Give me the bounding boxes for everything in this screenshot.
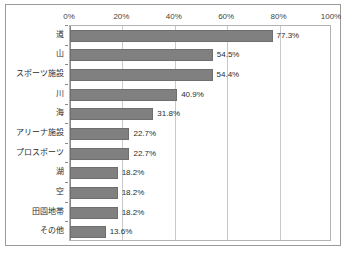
bar-row: 18.2%: [70, 207, 330, 219]
x-tick-label: 60%: [206, 11, 246, 22]
x-tick-label: 100%: [311, 11, 348, 22]
bar-row: 18.2%: [70, 167, 330, 179]
bar-row: 54.4%: [70, 69, 330, 81]
category-tick: [65, 45, 68, 46]
bar[interactable]: [70, 148, 129, 160]
x-axis-tick-labels: 0%20%40%60%80%100%: [69, 11, 331, 24]
bar-value-label: 18.2%: [122, 208, 145, 218]
bar[interactable]: [70, 49, 213, 61]
bar-value-label: 54.4%: [217, 70, 240, 80]
bar[interactable]: [70, 108, 153, 120]
category-label: 田園地帯: [32, 207, 64, 217]
bar-row: 40.9%: [70, 89, 330, 101]
category-tick: [65, 104, 68, 105]
bar-row: 22.7%: [70, 148, 330, 160]
chart-frame: 0%20%40%60%80%100% 道山スポーツ施設川海アリーナ施設プロスポー…: [5, 4, 341, 246]
x-tick-label: 40%: [154, 11, 194, 22]
category-label: 湖: [56, 167, 64, 177]
category-label: 海: [56, 108, 64, 118]
bar[interactable]: [70, 167, 118, 179]
bar-row: 77.3%: [70, 30, 330, 42]
category-tick: [65, 182, 68, 183]
category-tick: [65, 25, 68, 26]
category-label: プロスポーツ: [16, 148, 64, 158]
bar-value-label: 18.2%: [122, 188, 145, 198]
category-tick: [65, 123, 68, 124]
category-label: その他: [40, 226, 64, 236]
bar[interactable]: [70, 207, 118, 219]
category-tick: [65, 84, 68, 85]
bar-row: 54.5%: [70, 49, 330, 61]
bar-value-label: 31.8%: [157, 109, 180, 119]
bar-row: 18.2%: [70, 187, 330, 199]
category-axis-labels: 道山スポーツ施設川海アリーナ施設プロスポーツ湖空田園地帯その他: [10, 25, 68, 241]
bar-value-label: 77.3%: [277, 31, 300, 41]
bar[interactable]: [70, 226, 106, 238]
plot-area: 77.3%54.5%54.4%40.9%31.8%22.7%22.7%18.2%…: [69, 25, 331, 241]
bar-value-label: 40.9%: [181, 90, 204, 100]
category-tick: [65, 162, 68, 163]
category-label: 空: [56, 187, 64, 197]
bar[interactable]: [70, 89, 177, 101]
category-label: スポーツ施設: [16, 69, 64, 79]
category-tick: [65, 202, 68, 203]
bar-value-label: 18.2%: [122, 168, 145, 178]
bar-series: 77.3%54.5%54.4%40.9%31.8%22.7%22.7%18.2%…: [70, 26, 330, 240]
bar-row: 13.6%: [70, 226, 330, 238]
category-tick: [65, 64, 68, 65]
bar[interactable]: [70, 187, 118, 199]
category-label: 道: [56, 30, 64, 40]
category-label: アリーナ施設: [16, 128, 64, 138]
bar-chart: 0%20%40%60%80%100% 道山スポーツ施設川海アリーナ施設プロスポー…: [6, 5, 340, 245]
category-label: 川: [56, 89, 64, 99]
bar-value-label: 54.5%: [217, 50, 240, 60]
category-tick: [65, 221, 68, 222]
bar-row: 22.7%: [70, 128, 330, 140]
x-tick-label: 0%: [49, 11, 89, 22]
category-tick: [65, 143, 68, 144]
x-tick-label: 80%: [259, 11, 299, 22]
bar[interactable]: [70, 30, 273, 42]
x-tick-label: 20%: [101, 11, 141, 22]
category-label: 山: [56, 49, 64, 59]
bar[interactable]: [70, 69, 213, 81]
bar-value-label: 22.7%: [133, 129, 156, 139]
bar-value-label: 22.7%: [133, 149, 156, 159]
bar-row: 31.8%: [70, 108, 330, 120]
bar[interactable]: [70, 128, 129, 140]
bar-value-label: 13.6%: [110, 227, 133, 237]
